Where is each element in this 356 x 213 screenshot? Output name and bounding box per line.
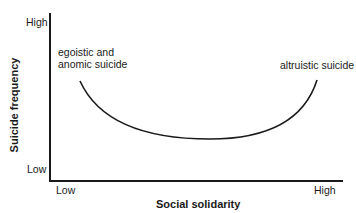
y-tick-high: High <box>26 16 48 28</box>
x-axis-title: Social solidarity <box>156 198 240 210</box>
y-axis-title: Suicide frequency <box>8 50 20 160</box>
x-tick-low: Low <box>56 184 75 196</box>
annotation-egoistic-line1: egoistic and <box>58 46 127 58</box>
annotation-altruistic: altruistic suicide <box>280 59 354 71</box>
diagram-canvas <box>0 0 356 213</box>
annotation-egoistic-anomic: egoistic and anomic suicide <box>58 46 127 70</box>
x-tick-high: High <box>314 184 336 196</box>
y-tick-low: Low <box>27 163 46 175</box>
annotation-egoistic-line2: anomic suicide <box>58 58 127 70</box>
u-shaped-curve <box>80 80 317 139</box>
